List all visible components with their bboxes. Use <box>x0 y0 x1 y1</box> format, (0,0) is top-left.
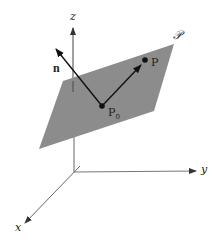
point-p0 <box>99 103 105 109</box>
point-p0-subscript: 0 <box>115 113 119 121</box>
normal-label: n <box>53 62 60 74</box>
diagram-svg <box>0 0 215 243</box>
y-axis <box>74 171 196 172</box>
z-axis-label: z <box>70 11 76 22</box>
diagram-canvas: z y x 𝒫 n P P0 <box>0 0 215 243</box>
point-p <box>142 57 148 63</box>
y-axis-label: y <box>201 164 207 175</box>
plane-label: 𝒫 <box>173 29 182 41</box>
point-p-label: P <box>151 57 158 68</box>
x-axis-label: x <box>15 222 21 233</box>
x-axis <box>25 166 80 223</box>
point-p0-label: P0 <box>108 107 120 121</box>
